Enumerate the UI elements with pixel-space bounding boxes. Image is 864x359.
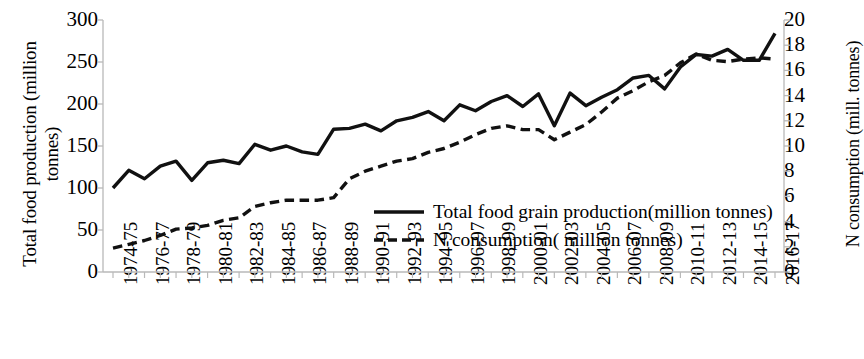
chart-legend: Total food grain production(million tonn…: [372, 198, 773, 254]
legend-item-n-consumption: N consumption( million tonnes): [372, 226, 773, 254]
legend-dashed-line-icon: [372, 233, 426, 247]
legend-item-production: Total food grain production(million tonn…: [372, 198, 773, 226]
series-line-food-grain-production: [113, 33, 775, 188]
legend-label-production: Total food grain production(million tonn…: [433, 198, 773, 226]
legend-solid-line-icon: [372, 205, 426, 219]
legend-label-n-consumption: N consumption( million tonnes): [433, 226, 683, 254]
